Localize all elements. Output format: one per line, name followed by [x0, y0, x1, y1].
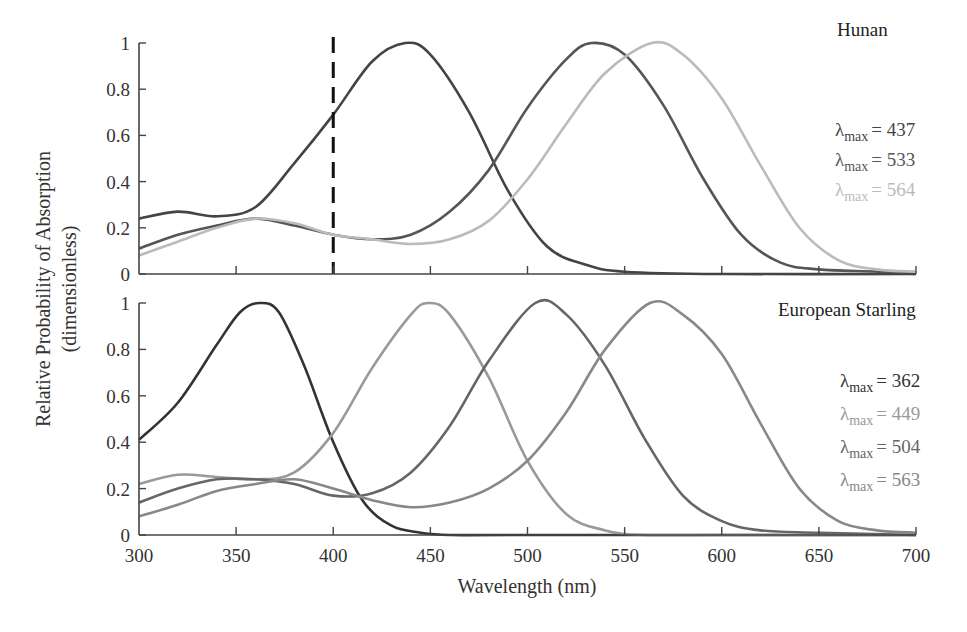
- x-tick-label: 650: [805, 545, 834, 566]
- y-tick-label: 0.2: [106, 479, 130, 500]
- x-axis-title: Wavelength (nm): [458, 575, 597, 598]
- legend-entry: λmax= 504: [840, 436, 921, 461]
- x-tick-label: 600: [708, 545, 737, 566]
- y-tick-label: 0: [121, 525, 131, 546]
- y-tick-label: 0.4: [106, 432, 130, 453]
- x-tick-labels: 300350400450500550600650700: [125, 545, 931, 566]
- panel-title: Hunan: [837, 19, 888, 40]
- y-tick-label: 0.4: [106, 172, 130, 193]
- x-tick-label: 400: [319, 545, 348, 566]
- legend-entry: λmax= 564: [835, 179, 916, 204]
- series-line-533: [139, 43, 916, 274]
- legend-entry: λmax= 449: [840, 403, 920, 428]
- series-line-437: [139, 43, 916, 275]
- panel-title: European Starling: [778, 299, 916, 320]
- legend-1: λmax= 362λmax= 449λmax= 504λmax= 563: [840, 370, 921, 494]
- x-tick-label: 500: [513, 545, 542, 566]
- y-tick-label: 1: [121, 33, 131, 54]
- y-tick-label: 0.8: [106, 79, 130, 100]
- legend-0: λmax= 437λmax= 533λmax= 564: [835, 119, 916, 204]
- series-line-504: [139, 300, 916, 535]
- y-axis-title-line1: Relative Probability of Absorption: [32, 151, 55, 427]
- y-tick-label: 0.6: [106, 125, 130, 146]
- legend-entry: λmax= 362: [840, 370, 920, 395]
- x-tick-label: 450: [416, 545, 445, 566]
- absorption-spectra-chart: 00.20.40.60.81Hunanλmax= 437λmax= 533λma…: [0, 0, 967, 632]
- legend-entry: λmax= 563: [840, 469, 920, 494]
- axes-0: 00.20.40.60.81: [106, 33, 916, 285]
- y-tick-label: 0.6: [106, 386, 130, 407]
- series-line-563: [139, 301, 916, 533]
- y-tick-label: 0.2: [106, 218, 130, 239]
- series-line-564: [139, 42, 916, 272]
- series-line-362: [139, 303, 916, 535]
- y-tick-label: 1: [121, 293, 131, 314]
- panel-1: 00.20.40.60.81European Starlingλmax= 362…: [106, 293, 921, 546]
- series-line-449: [139, 303, 916, 535]
- x-tick-label: 700: [902, 545, 931, 566]
- legend-entry: λmax= 437: [835, 119, 915, 144]
- y-tick-label: 0.8: [106, 339, 130, 360]
- y-axis-title-line2: (dimensionless): [58, 226, 81, 353]
- legend-entry: λmax= 533: [835, 149, 915, 174]
- y-axis-title: Relative Probability of Absorption (dime…: [32, 151, 81, 427]
- panel-0: 00.20.40.60.81Hunanλmax= 437λmax= 533λma…: [106, 19, 916, 285]
- x-tick-label: 350: [222, 545, 251, 566]
- y-tick-label: 0: [121, 264, 131, 285]
- x-tick-label: 300: [125, 545, 154, 566]
- x-tick-label: 550: [610, 545, 639, 566]
